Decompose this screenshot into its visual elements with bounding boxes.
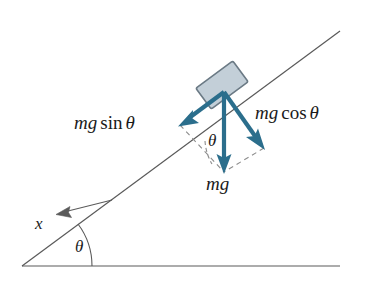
dashed-parallel-line-cos bbox=[224, 148, 264, 172]
mg-cos-theta-vector-head bbox=[246, 129, 265, 151]
label-theta-at-base: θ bbox=[75, 238, 83, 255]
diagram-canvas bbox=[0, 0, 376, 299]
label-mg: mg bbox=[206, 174, 229, 193]
dashed-parallel-line-sin bbox=[180, 125, 224, 172]
x-axis-arrow-head bbox=[56, 207, 72, 218]
label-mg-cos-theta-mg: mg bbox=[255, 102, 278, 123]
incline-surface-line bbox=[22, 31, 340, 266]
label-x-axis: x bbox=[35, 215, 43, 232]
label-mg-sin-theta-mg: mg bbox=[74, 112, 97, 133]
label-theta-at-block: θ bbox=[208, 132, 216, 149]
label-mg-sin-theta: mgsinθ bbox=[74, 113, 135, 132]
label-mg-cos-theta: mgcosθ bbox=[255, 103, 319, 122]
label-mg-sin-theta-func: sin bbox=[100, 112, 122, 133]
label-mg-cos-theta-symbol: θ bbox=[310, 102, 319, 123]
label-mg-cos-theta-func: cos bbox=[281, 102, 306, 123]
inclined-plane-diagram: mgsinθ mgcosθ mg θ θ x bbox=[0, 0, 376, 299]
label-mg-sin-theta-symbol: θ bbox=[125, 112, 134, 133]
